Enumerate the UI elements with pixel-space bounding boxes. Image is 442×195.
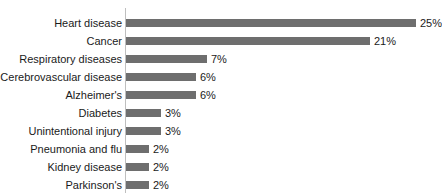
bar-category-label: Cerebrovascular disease bbox=[0, 68, 122, 86]
bar-category-label: Parkinson's bbox=[65, 176, 122, 194]
bar-row: Alzheimer's6% bbox=[0, 86, 437, 104]
plot-area: Heart disease25%Cancer21%Respiratory dis… bbox=[0, 8, 437, 195]
bar-value-label: 6% bbox=[200, 68, 216, 86]
bar-row: Parkinson's2% bbox=[0, 176, 437, 194]
bar-value-label: 2% bbox=[153, 176, 169, 194]
bar-category-label: Kidney disease bbox=[47, 158, 122, 176]
bar-value-label: 7% bbox=[211, 50, 227, 68]
bar-value-label: 2% bbox=[153, 158, 169, 176]
bar-value-label: 2% bbox=[153, 140, 169, 158]
bar-fill bbox=[126, 145, 149, 153]
bar-category-label: Diabetes bbox=[79, 104, 122, 122]
bar-category-label: Pneumonia and flu bbox=[30, 140, 122, 158]
bar-value-label: 21% bbox=[374, 32, 396, 50]
bar-track: 6% bbox=[126, 68, 437, 86]
bar-row: Kidney disease2% bbox=[0, 158, 437, 176]
bar-category-label: Heart disease bbox=[54, 14, 122, 32]
bar-track: 2% bbox=[126, 158, 437, 176]
bar-track: 25% bbox=[126, 14, 437, 32]
bar-row: Diabetes3% bbox=[0, 104, 437, 122]
bar-fill bbox=[126, 181, 149, 189]
bar-fill bbox=[126, 19, 416, 27]
bar-value-label: 6% bbox=[200, 86, 216, 104]
bar-fill bbox=[126, 163, 149, 171]
bar-fill bbox=[126, 109, 161, 117]
chart-title bbox=[0, 0, 437, 3]
bar-category-label: Cancer bbox=[87, 32, 122, 50]
bar-value-label: 3% bbox=[165, 122, 181, 140]
bar-track: 2% bbox=[126, 140, 437, 158]
bar-track: 3% bbox=[126, 122, 437, 140]
bar-fill bbox=[126, 91, 196, 99]
bar-row: Cerebrovascular disease6% bbox=[0, 68, 437, 86]
bar-track: 2% bbox=[126, 176, 437, 194]
bar-fill bbox=[126, 37, 370, 45]
bar-fill bbox=[126, 73, 196, 81]
bar-category-label: Respiratory diseases bbox=[19, 50, 122, 68]
bar-row: Pneumonia and flu2% bbox=[0, 140, 437, 158]
bar-row: Cancer21% bbox=[0, 32, 437, 50]
bar-row: Heart disease25% bbox=[0, 14, 437, 32]
bar-fill bbox=[126, 55, 207, 63]
bar-category-label: Unintentional injury bbox=[28, 122, 122, 140]
bar-row: Unintentional injury3% bbox=[0, 122, 437, 140]
bar-value-label: 25% bbox=[420, 14, 442, 32]
bar-row: Respiratory diseases7% bbox=[0, 50, 437, 68]
bar-track: 7% bbox=[126, 50, 437, 68]
bar-track: 21% bbox=[126, 32, 437, 50]
bar-value-label: 3% bbox=[165, 104, 181, 122]
bar-fill bbox=[126, 127, 161, 135]
bar-category-label: Alzheimer's bbox=[65, 86, 122, 104]
bar-track: 6% bbox=[126, 86, 437, 104]
bar-track: 3% bbox=[126, 104, 437, 122]
